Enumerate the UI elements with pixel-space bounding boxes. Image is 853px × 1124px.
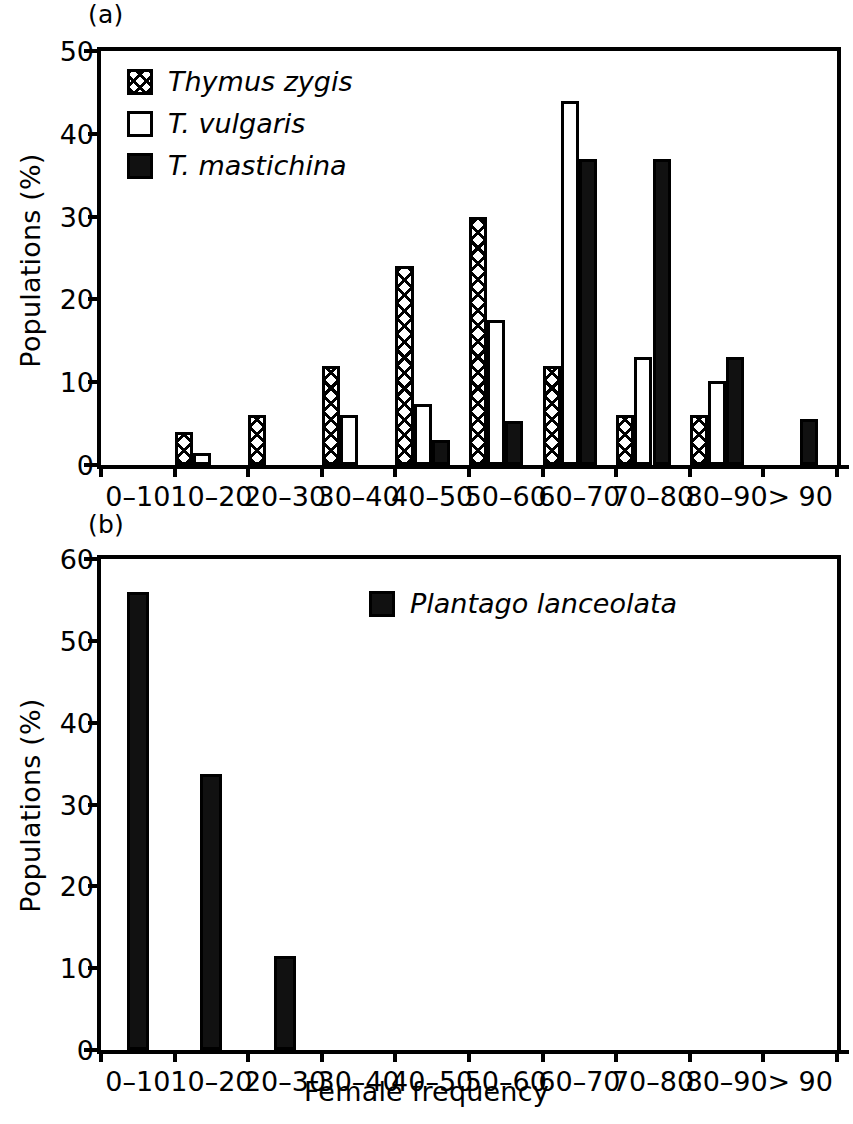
panel-a-label: (a) [88,0,123,29]
x-axis-title: Female frequency [0,1076,853,1107]
panel-a: (a) Populations (%) Thymus zygisT. vulga… [0,0,853,505]
x-tick-end [835,1050,839,1062]
x-tick-3 [320,1050,324,1062]
bar [543,366,561,465]
bar [395,266,413,465]
panel-a-legend: Thymus zygisT. vulgarisT. mastichina [127,65,353,191]
legend-item: T. vulgaris [127,107,353,140]
legend-label: T. mastichina [168,152,347,179]
legend-swatch-solid-icon [127,153,153,179]
panel-a-y-axis-title: Populations (%) [15,151,46,371]
legend-swatch-open-icon [127,111,153,137]
legend-label: Plantago lanceolata [410,590,677,617]
y-tick-label-40: 40 [60,709,94,736]
bar [800,419,818,465]
bar [340,415,358,465]
legend-item: Thymus zygis [127,65,353,98]
x-tick-1 [173,1050,177,1062]
bar [432,440,450,465]
x-tick-7 [614,1050,618,1062]
y-tick-label-30: 30 [60,791,94,818]
x-tick-2 [246,1050,250,1062]
bar [505,421,523,465]
y-tick-label-10: 10 [60,955,94,982]
bar [322,366,340,465]
bar [274,956,296,1050]
legend-item: T. mastichina [127,149,353,182]
y-tick-label-50: 50 [60,38,94,65]
panel-a-x-axis-line [97,465,849,469]
y-tick-label-0: 0 [77,452,94,479]
x-tick-1 [173,465,177,477]
bar [414,404,432,465]
bar [487,320,505,465]
bar [127,592,149,1050]
y-tick-label-0: 0 [77,1037,94,1064]
bar [690,415,708,465]
x-tick-5 [467,1050,471,1062]
legend-item: Plantago lanceolata [369,587,677,620]
legend-swatch-hatch-icon [127,69,153,95]
x-tick-end [835,465,839,477]
bar [469,217,487,465]
legend-label: T. vulgaris [168,110,305,137]
legend-label: Thymus zygis [168,68,353,95]
x-tick-3 [320,465,324,477]
figure-root: (a) Populations (%) Thymus zygisT. vulga… [0,0,853,1124]
panel-b-y-axis-title: Populations (%) [15,696,46,916]
y-tick-label-60: 60 [60,546,94,573]
x-tick-2 [246,465,250,477]
bar [726,357,744,465]
bar [653,159,671,465]
x-tick-9 [761,1050,765,1062]
bar [175,432,193,465]
bar [634,357,652,465]
panel-b-label: (b) [88,510,124,539]
y-tick-label-30: 30 [60,203,94,230]
x-tick-6 [541,1050,545,1062]
bar [200,774,222,1050]
bar [708,381,726,465]
y-tick-label-50: 50 [60,627,94,654]
bar [193,453,211,465]
bar [616,415,634,465]
x-tick-5 [467,465,471,477]
legend-swatch-solid-icon [369,591,395,617]
panel-a-plot-area: Thymus zygisT. vulgarisT. mastichina 010… [97,47,841,465]
x-tick-4 [393,465,397,477]
panel-b-legend: Plantago lanceolata [369,587,677,629]
x-tick-4 [393,1050,397,1062]
bar [561,101,579,465]
bar [248,415,266,465]
x-tick-8 [688,1050,692,1062]
panel-b: (b) Populations (%) Plantago lanceolata … [0,505,853,1124]
y-tick-label-20: 20 [60,873,94,900]
x-tick-8 [688,465,692,477]
panel-b-plot-area: Plantago lanceolata 01020304050600–1010–… [97,555,841,1050]
x-tick-7 [614,465,618,477]
x-tick-9 [761,465,765,477]
x-tick-6 [541,465,545,477]
x-tick-0 [99,1050,103,1062]
y-tick-label-40: 40 [60,120,94,147]
y-tick-label-10: 10 [60,369,94,396]
bar [579,159,597,465]
x-tick-0 [99,465,103,477]
panel-b-x-axis-line [97,1050,849,1054]
y-tick-label-20: 20 [60,286,94,313]
